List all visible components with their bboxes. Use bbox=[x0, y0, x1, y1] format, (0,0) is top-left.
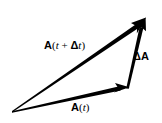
vector-diagram-figure: A(t + Δt) ΔA A(t) bbox=[0, 0, 162, 123]
a-t-close-paren: ) bbox=[86, 101, 90, 113]
label-close-paren: ) bbox=[81, 39, 85, 51]
a-t-a-symbol: A bbox=[71, 101, 79, 113]
delta-a-a-symbol: A bbox=[141, 50, 149, 62]
label-vector-a-t: A(t) bbox=[71, 102, 89, 113]
label-vector-a-t-plus-delta-t: A(t + Δt) bbox=[44, 40, 85, 51]
delta-a-delta-symbol: Δ bbox=[133, 50, 141, 62]
label-plus-sign: + bbox=[59, 39, 71, 51]
label-a-symbol: A bbox=[44, 39, 52, 51]
label-vector-delta-a: ΔA bbox=[133, 51, 149, 62]
